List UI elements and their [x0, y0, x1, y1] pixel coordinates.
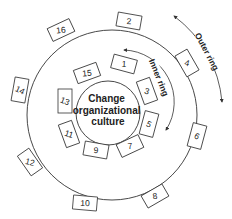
box-number: 2: [126, 16, 131, 26]
outer-box-12: 12: [17, 148, 42, 176]
outer-box-8: 8: [141, 184, 169, 208]
outer-box-4: 4: [175, 49, 199, 77]
inner-box-1: 1: [111, 54, 138, 74]
center-label: Change organizational culture: [73, 93, 144, 127]
culture-change-diagram: Change organizational culture Inner ring…: [0, 0, 232, 219]
box-number: 16: [56, 24, 67, 35]
inner-box-9: 9: [83, 141, 109, 159]
center-label-line-1: Change: [88, 93, 125, 104]
center-label-line-3: culture: [91, 116, 125, 127]
outer-box-10: 10: [72, 195, 97, 211]
inner-box-3: 3: [136, 77, 157, 104]
outer-box-2: 2: [116, 12, 142, 30]
outer-box-6: 6: [187, 123, 207, 150]
outer-box-16: 16: [47, 19, 75, 42]
box-number: 10: [80, 198, 90, 208]
center-label-line-2: organizational: [73, 105, 141, 116]
outer-box-14: 14: [11, 77, 29, 103]
box-number: 1: [121, 59, 127, 69]
box-number: 9: [93, 145, 98, 155]
box-number: 15: [82, 68, 93, 79]
inner-box-15: 15: [73, 62, 100, 83]
inner-box-7: 7: [116, 135, 144, 158]
inner-box-11: 11: [58, 120, 79, 147]
inner-box-13: 13: [58, 89, 72, 113]
